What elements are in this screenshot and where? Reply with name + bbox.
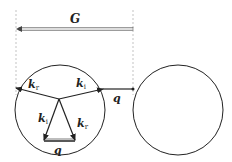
k-r-upper-label: kr	[28, 78, 40, 92]
k-r-lower-vector	[59, 99, 75, 140]
k-i-lower-label: ki	[38, 112, 49, 126]
diagram-canvas: G kr ki ki kr q q	[0, 0, 232, 162]
q-connector-endpoint	[132, 88, 135, 91]
k-r-lower-label: kr	[77, 117, 89, 131]
right-ewald-circle	[133, 65, 223, 155]
q-lower-label: q	[54, 144, 62, 157]
k-i-upper-label: ki	[76, 77, 87, 91]
g-vector-arrow	[16, 26, 133, 32]
q-connector-label: q	[113, 92, 121, 105]
g-label: G	[70, 12, 80, 26]
k-i-upper-vector	[59, 89, 103, 99]
